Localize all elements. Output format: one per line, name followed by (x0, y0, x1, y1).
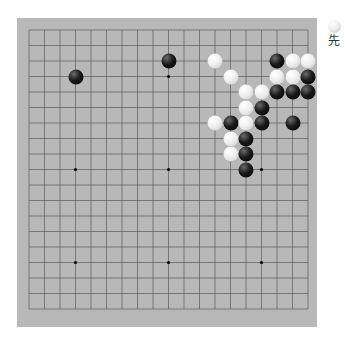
star-point (167, 168, 170, 171)
white-stone (223, 69, 238, 84)
black-stone (254, 116, 269, 131)
star-point (74, 168, 77, 171)
black-stone (270, 54, 285, 69)
white-stone (239, 100, 254, 115)
white-stone-icon (328, 20, 341, 33)
white-stone (223, 147, 238, 162)
black-stone (285, 85, 300, 100)
white-stone (239, 116, 254, 131)
black-stone (239, 131, 254, 146)
white-stone (208, 54, 223, 69)
white-stone (285, 69, 300, 84)
star-point (260, 261, 263, 264)
black-stone (239, 147, 254, 162)
white-stone (223, 131, 238, 146)
black-stone (270, 85, 285, 100)
black-stone (285, 116, 300, 131)
white-stone (301, 54, 316, 69)
black-stone (254, 100, 269, 115)
white-stone (254, 85, 269, 100)
white-stone (285, 54, 300, 69)
white-stone (270, 69, 285, 84)
first-move-label: 先 (326, 34, 342, 48)
black-stone (301, 85, 316, 100)
star-point (167, 75, 170, 78)
black-stone (68, 69, 83, 84)
black-stone (301, 69, 316, 84)
star-point (74, 261, 77, 264)
black-stone (239, 162, 254, 177)
white-stone (239, 85, 254, 100)
star-point (260, 168, 263, 171)
turn-indicator: 先 (326, 20, 342, 48)
go-board[interactable] (17, 18, 317, 327)
black-stone (223, 116, 238, 131)
star-point (167, 261, 170, 264)
white-stone (208, 116, 223, 131)
black-stone (161, 54, 176, 69)
